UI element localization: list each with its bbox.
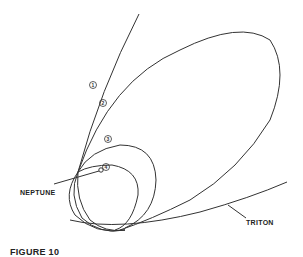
figure-caption: FIGURE 10 [10, 247, 59, 257]
trajectory-2 [78, 32, 280, 230]
triton-leader [228, 205, 246, 218]
marker-1: 1 [92, 82, 95, 88]
marker-3: 3 [107, 136, 110, 142]
neptune-label: NEPTUNE [20, 189, 56, 196]
marker-2: 2 [102, 100, 105, 106]
marker-4: 4 [105, 164, 108, 170]
orbit-circle-c [78, 172, 126, 231]
triton-label: TRITON [246, 219, 274, 226]
neptune-leader [54, 171, 99, 184]
trajectory-3 [78, 145, 156, 228]
